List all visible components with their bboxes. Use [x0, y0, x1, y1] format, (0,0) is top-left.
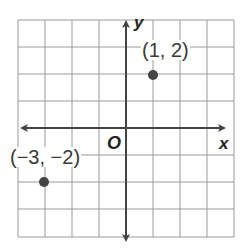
point-label-neg3-neg2: (−3, −2) — [9, 147, 81, 167]
x-axis-label: x — [219, 135, 228, 152]
point-neg3-neg2 — [39, 177, 49, 187]
point-1-2 — [148, 70, 158, 80]
point-label-1-2: (1, 2) — [141, 40, 190, 60]
coordinate-plane — [0, 0, 240, 248]
origin-label: O — [107, 134, 121, 152]
y-axis-label: y — [134, 14, 143, 31]
axes — [22, 22, 224, 240]
